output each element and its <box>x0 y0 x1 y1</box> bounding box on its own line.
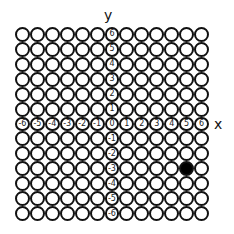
empty-circle <box>119 161 134 176</box>
grid-cell <box>45 87 60 102</box>
grid-cell <box>30 72 45 87</box>
empty-circle <box>149 27 164 42</box>
grid-cell <box>164 161 179 176</box>
empty-circle <box>119 42 134 57</box>
grid-cell <box>90 72 105 87</box>
grid-cell <box>179 206 194 221</box>
grid-cell <box>149 87 164 102</box>
y-tick-label-circle: 2 <box>105 87 120 102</box>
empty-circle <box>179 146 194 161</box>
grid-cell: -4 <box>105 176 120 191</box>
grid-cell: 2 <box>134 117 149 132</box>
grid-cell <box>75 206 90 221</box>
grid-cell <box>75 42 90 57</box>
empty-circle <box>90 72 105 87</box>
grid-cell <box>179 87 194 102</box>
grid-cell <box>194 176 209 191</box>
grid-cell <box>179 131 194 146</box>
empty-circle <box>149 57 164 72</box>
empty-circle <box>75 102 90 117</box>
grid-cell <box>149 57 164 72</box>
empty-circle <box>179 72 194 87</box>
y-tick-label-circle: -5 <box>105 191 120 206</box>
x-tick-label-circle: -5 <box>30 117 45 132</box>
grid-cell <box>119 191 134 206</box>
empty-circle <box>90 27 105 42</box>
empty-circle <box>179 87 194 102</box>
grid-cell <box>30 87 45 102</box>
empty-circle <box>134 146 149 161</box>
empty-circle <box>30 102 45 117</box>
grid-cell <box>194 191 209 206</box>
grid-cell: -2 <box>105 146 120 161</box>
empty-circle <box>90 87 105 102</box>
empty-circle <box>30 72 45 87</box>
grid-cell <box>134 191 149 206</box>
grid-cell <box>179 42 194 57</box>
grid-cell: -3 <box>60 117 75 132</box>
grid-cell <box>90 206 105 221</box>
grid-cell <box>194 72 209 87</box>
grid-cell <box>75 102 90 117</box>
x-tick-label-circle: 2 <box>134 117 149 132</box>
empty-circle <box>90 102 105 117</box>
grid-cell <box>119 42 134 57</box>
grid-cell <box>45 131 60 146</box>
grid-cell: 0 <box>105 117 120 132</box>
empty-circle <box>164 57 179 72</box>
y-tick-label-circle: 4 <box>105 57 120 72</box>
empty-circle <box>15 72 30 87</box>
grid-cell <box>15 42 30 57</box>
grid-cell <box>30 102 45 117</box>
grid-cell <box>90 42 105 57</box>
empty-circle <box>30 131 45 146</box>
grid-cell <box>164 102 179 117</box>
grid-cell <box>179 161 194 176</box>
empty-circle <box>45 87 60 102</box>
empty-circle <box>60 42 75 57</box>
grid-cell <box>194 27 209 42</box>
empty-circle <box>134 102 149 117</box>
empty-circle <box>30 27 45 42</box>
empty-circle <box>149 146 164 161</box>
grid-cell <box>134 146 149 161</box>
grid-cell <box>60 57 75 72</box>
grid-cell: -2 <box>75 117 90 132</box>
empty-circle <box>45 176 60 191</box>
empty-circle <box>119 87 134 102</box>
empty-circle <box>90 57 105 72</box>
grid-cell <box>149 102 164 117</box>
grid-cell <box>15 87 30 102</box>
grid-cell <box>15 161 30 176</box>
empty-circle <box>164 72 179 87</box>
grid-cell <box>194 87 209 102</box>
empty-circle <box>60 206 75 221</box>
grid-cell <box>119 27 134 42</box>
grid-cell <box>134 206 149 221</box>
grid-cell <box>30 27 45 42</box>
grid-cell <box>30 206 45 221</box>
filled-circle <box>179 161 194 176</box>
empty-circle <box>149 42 164 57</box>
y-tick-label-circle: -4 <box>105 176 120 191</box>
empty-circle <box>149 72 164 87</box>
grid-cell <box>75 161 90 176</box>
empty-circle <box>60 131 75 146</box>
empty-circle <box>90 161 105 176</box>
empty-circle <box>45 27 60 42</box>
grid-cell <box>75 146 90 161</box>
grid-cell <box>149 191 164 206</box>
grid-cell <box>90 27 105 42</box>
grid-cell <box>149 27 164 42</box>
grid-cell <box>149 72 164 87</box>
empty-circle <box>194 102 209 117</box>
x-tick-label-circle: -4 <box>45 117 60 132</box>
grid-cell: 1 <box>105 102 120 117</box>
grid-cell <box>119 176 134 191</box>
empty-circle <box>75 131 90 146</box>
empty-circle <box>30 176 45 191</box>
empty-circle <box>179 42 194 57</box>
grid-cell <box>194 57 209 72</box>
grid-cell <box>75 27 90 42</box>
grid-cell <box>134 27 149 42</box>
